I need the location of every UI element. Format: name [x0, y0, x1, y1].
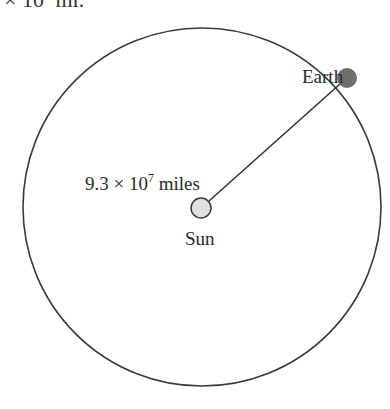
orbit-svg [0, 0, 390, 409]
distance-mantissa: 9.3 × 10 [85, 173, 148, 194]
distance-unit: miles [154, 173, 200, 194]
sun-label: Sun [185, 229, 215, 248]
sun-earth-distance-line [209, 84, 340, 201]
sun-icon [191, 198, 211, 218]
distance-label: 9.3 × 107 miles [85, 174, 200, 193]
orbit-diagram: × 108 mi. Earth 9.3 × 107 miles Sun [0, 0, 390, 409]
earth-label: Earth [302, 67, 343, 86]
